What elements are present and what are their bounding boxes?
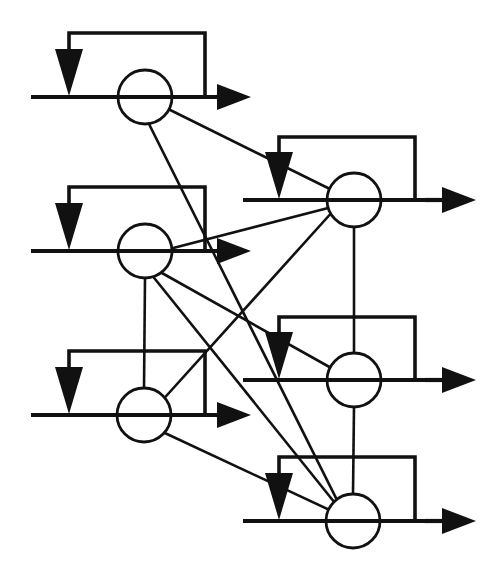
feedback-arrowhead-down-L2 <box>55 203 83 250</box>
network-diagram-svg: neuron-left-1neuron-left-2neuron-left-3n… <box>0 0 498 579</box>
feedback-arrowhead-down-R3 <box>265 473 293 520</box>
output-arrowhead-L2 <box>217 238 251 264</box>
neuron-node-L1[interactable]: neuron-left-1 <box>118 70 172 124</box>
connection-edge-L2-to-L3 <box>144 278 145 388</box>
output-arrowhead-R2 <box>442 367 476 393</box>
neuron-node-R2[interactable]: neuron-right-2 <box>327 353 381 407</box>
connection-edge-L2-to-R1 <box>150 207 332 254</box>
feedback-arrowhead-down-L3 <box>55 367 83 414</box>
neuron-node-R1[interactable]: neuron-right-1 <box>327 173 381 227</box>
feedback-arrowhead-down-L1 <box>55 49 83 96</box>
neuron-node-R3[interactable]: neuron-right-3 <box>326 494 380 548</box>
connection-edges-layer <box>144 100 354 513</box>
output-arrowhead-L3 <box>217 402 251 428</box>
neuron-node-L2[interactable]: neuron-left-2 <box>118 224 172 278</box>
network-diagram-canvas: neuron-left-1neuron-left-2neuron-left-3n… <box>0 0 498 579</box>
output-arrowhead-L1 <box>217 84 251 110</box>
neuron-node-L3[interactable]: neuron-left-3 <box>117 388 171 442</box>
connection-edge-L3-to-R1 <box>150 210 334 414</box>
output-arrowhead-R1 <box>442 187 476 213</box>
output-arrowhead-R3 <box>442 508 476 534</box>
connection-edge-R2-to-R3 <box>353 407 354 494</box>
connection-edge-L1-to-R1 <box>150 100 338 193</box>
feedback-arrowhead-down-R2 <box>265 332 293 379</box>
arrowheads-layer <box>55 49 476 534</box>
feedback-arrowhead-down-R1 <box>265 152 293 199</box>
